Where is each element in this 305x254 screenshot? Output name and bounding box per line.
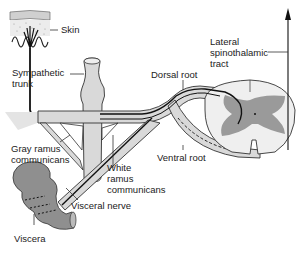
shadow [5,112,40,130]
label-lateral-spinothalamic-line2: spinothalamic [210,47,268,58]
label-dorsal-root: Dorsal root [151,69,198,80]
label-ventral-root: Ventral root [157,152,206,163]
arrow-up-icon [285,8,291,20]
label-sympathetic-trunk-line1: Sympathetic [12,67,65,78]
label-skin: Skin [61,24,79,35]
skin-illustration [10,11,50,49]
label-white-ramus-line2: ramus [107,173,134,184]
label-visceral-nerve: Visceral nerve [71,200,131,211]
label-lateral-spinothalamic-line1: Lateral [210,36,239,47]
label-lateral-spinothalamic-line3: tract [210,58,229,69]
spinal-nerve [38,86,220,123]
label-white-ramus-line3: communicans [107,184,166,195]
label-gray-ramus-line1: Gray ramus [11,143,61,154]
label-sympathetic-trunk-line2: trunk [12,78,33,89]
sympathetic-pathway-diagram: Skin Sympathetic trunk Lateral spinothal… [0,0,305,254]
label-gray-ramus-line2: communicans [11,154,70,165]
label-viscera: Viscera [14,233,46,244]
label-white-ramus-line1: White [107,162,131,173]
